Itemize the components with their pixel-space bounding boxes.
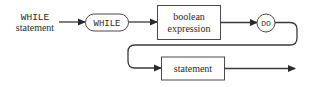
condition-nonterminal: boolean expression: [158, 6, 221, 40]
do-text: DO: [261, 19, 271, 28]
label-word: statement: [16, 22, 55, 33]
while-statement-syntax-diagram: WHILE statement WHILE boolean expression…: [0, 0, 320, 87]
body-nonterminal: statement: [162, 57, 225, 80]
do-terminal: DO: [257, 14, 275, 32]
condition-text-line-1: boolean: [173, 11, 205, 22]
while-text: WHILE: [93, 19, 120, 29]
statement-text: statement: [174, 63, 213, 74]
while-terminal: WHILE: [86, 14, 129, 31]
condition-text-line-2: expression: [168, 23, 211, 34]
